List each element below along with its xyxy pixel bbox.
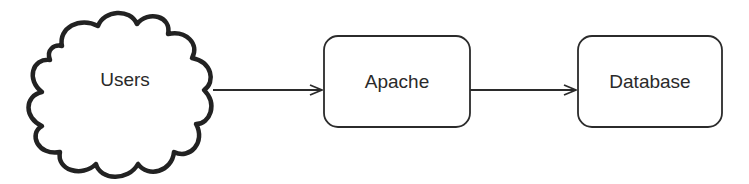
database-label: Database <box>609 71 690 92</box>
apache-label: Apache <box>365 71 429 92</box>
cloud-icon <box>29 13 212 177</box>
users-label: Users <box>100 69 150 90</box>
flow-diagram: Users Apache Database <box>0 0 749 184</box>
users-cloud-node: Users <box>29 13 212 177</box>
database-node: Database <box>578 36 722 127</box>
apache-node: Apache <box>324 36 470 127</box>
